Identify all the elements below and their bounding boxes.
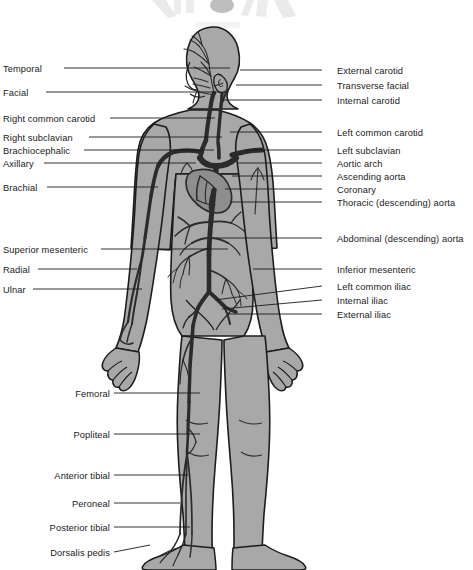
- label-popliteal: Popliteal: [74, 430, 111, 441]
- label-internal-carotid: Internal carotid: [337, 96, 400, 107]
- top-edge-artifact: [152, 0, 296, 28]
- label-anterior-tibial: Anterior tibial: [54, 471, 110, 482]
- label-brachial: Brachial: [3, 183, 37, 194]
- label-temporal: Temporal: [3, 64, 42, 75]
- label-peroneal: Peroneal: [72, 499, 110, 510]
- label-brachiocephalic: Brachiocephalic: [3, 146, 70, 157]
- label-radial: Radial: [3, 265, 30, 276]
- label-superior-mesenteric: Superior mesenteric: [3, 245, 88, 256]
- label-axillary: Axillary: [3, 159, 34, 170]
- arterial-system-figure: TemporalFacialRight common carotidRight …: [0, 0, 473, 570]
- label-posterior-tibial: Posterior tibial: [50, 523, 110, 534]
- label-femoral: Femoral: [75, 389, 110, 400]
- label-right-subclavian: Right subclavian: [3, 133, 73, 144]
- label-ascending-aorta: Ascending aorta: [337, 172, 406, 183]
- leader-line-dorsalis-pedis: [114, 545, 150, 552]
- label-internal-iliac: Internal iliac: [337, 296, 388, 307]
- label-aortic-arch: Aortic arch: [337, 159, 382, 170]
- label-external-iliac: External iliac: [337, 310, 391, 321]
- label-dorsalis-pedis: Dorsalis pedis: [50, 548, 110, 559]
- label-left-common-carotid: Left common carotid: [337, 128, 423, 139]
- label-left-common-iliac: Left common iliac: [337, 282, 411, 293]
- label-ulnar: Ulnar: [3, 285, 26, 296]
- label-abdominal-descending-aorta: Abdominal (descending) aorta: [337, 234, 464, 245]
- label-left-subclavian: Left subclavian: [337, 146, 400, 157]
- label-facial: Facial: [3, 88, 28, 99]
- label-right-common-carotid: Right common carotid: [3, 114, 95, 125]
- label-transverse-facial: Transverse facial: [337, 81, 409, 92]
- label-external-carotid: External carotid: [337, 66, 403, 77]
- label-thoracic-descending-aorta: Thoracic (descending) aorta: [337, 198, 455, 209]
- label-coronary: Coronary: [337, 185, 376, 196]
- label-inferior-mesenteric: Inferior mesenteric: [337, 265, 416, 276]
